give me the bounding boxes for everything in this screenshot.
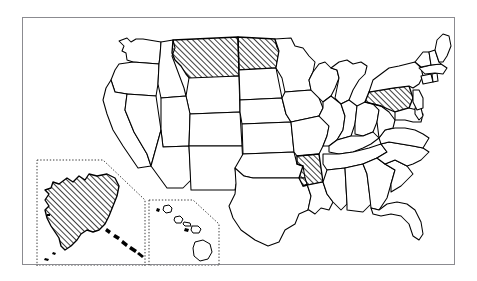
figure-root [0,0,477,281]
alaska-aleutian-islet-3 [44,258,49,261]
state-kansas[interactable] [242,122,294,154]
state-oregon[interactable] [111,62,159,96]
map-frame [22,17,455,265]
hawaii-kauai[interactable] [163,205,172,213]
hawaii-inset [156,205,212,261]
hawaii-big-island[interactable] [193,240,212,261]
state-connecticut[interactable] [421,74,433,84]
state-colorado[interactable] [189,112,242,146]
state-new-york[interactable] [369,62,423,92]
hawaii-maui[interactable] [191,226,201,233]
hawaii-molokai[interactable] [183,222,191,226]
state-texas[interactable] [229,168,311,246]
state-maine[interactable] [435,34,451,62]
state-wyoming[interactable] [186,76,240,114]
alaska-aleutian-islet-2 [52,252,56,255]
state-south-dakota[interactable] [239,68,282,100]
alaska-panhandle-islet-2 [113,234,120,240]
state-alaska[interactable] [45,174,119,250]
state-missouri[interactable] [291,116,329,156]
hawaii-oahu[interactable] [174,216,183,223]
state-minnesota[interactable] [275,38,315,92]
state-oklahoma[interactable] [235,152,305,178]
state-utah[interactable] [161,96,190,147]
alaska-aleutian-islet-1 [47,214,50,216]
state-new-jersey[interactable] [413,90,423,110]
state-washington[interactable] [119,38,161,64]
hawaii-niihau [156,208,160,212]
alaska-panhandle-islet-4 [129,246,137,253]
state-north-dakota[interactable] [238,37,279,70]
alaska-panhandle-islet-1 [105,228,111,234]
state-rhode-island[interactable] [432,73,438,82]
state-montana[interactable] [172,37,239,80]
us-map [23,18,456,266]
alaska-panhandle-islet-3 [121,240,128,247]
alaska-inset [44,174,144,261]
hawaii-lanai [184,228,189,232]
alaska-panhandle-islet-5 [137,252,144,258]
